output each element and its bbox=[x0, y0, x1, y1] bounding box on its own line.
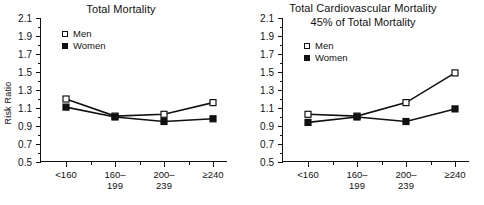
data-point-marker bbox=[354, 114, 360, 120]
y-axis-minor-tick bbox=[38, 27, 41, 28]
y-axis-tick-label: 0.9 bbox=[250, 121, 274, 132]
y-axis-minor-tick bbox=[280, 45, 283, 46]
y-axis-minor-tick bbox=[280, 27, 283, 28]
data-point-marker bbox=[161, 111, 167, 117]
x-axis-tick bbox=[164, 162, 165, 167]
y-axis-tick bbox=[278, 54, 283, 55]
data-point-marker bbox=[161, 119, 167, 125]
panel-total-mortality: Total Mortality Risk Ratio Men Women 0.5… bbox=[0, 0, 242, 205]
panel-total-cardiovascular-mortality: Total Cardiovascular Mortality 45% of To… bbox=[242, 0, 484, 205]
y-axis-tick-label: 0.5 bbox=[250, 157, 274, 168]
x-axis-tick bbox=[455, 162, 456, 167]
y-axis-tick-label: 1.7 bbox=[8, 49, 32, 60]
y-axis-tick bbox=[36, 54, 41, 55]
y-axis-tick-label: 0.5 bbox=[8, 157, 32, 168]
y-axis-minor-tick bbox=[280, 153, 283, 154]
x-axis-tick-label-line: ≥240 bbox=[425, 169, 484, 180]
y-axis-tick bbox=[278, 90, 283, 91]
x-axis-tick bbox=[357, 162, 358, 167]
x-axis-minor-tick bbox=[333, 162, 334, 165]
y-axis-tick-label: 0.7 bbox=[250, 139, 274, 150]
y-axis-minor-tick bbox=[280, 63, 283, 64]
y-axis-tick bbox=[36, 126, 41, 127]
y-axis-tick-label: 2.1 bbox=[250, 13, 274, 24]
y-axis-tick-label: 1.1 bbox=[250, 103, 274, 114]
x-axis-tick-label-line: ≥240 bbox=[183, 169, 243, 180]
y-axis-tick bbox=[278, 126, 283, 127]
series-line-women bbox=[66, 107, 213, 121]
series-line-men bbox=[66, 99, 213, 116]
y-axis-tick-label: 1.9 bbox=[8, 31, 32, 42]
data-point-marker bbox=[112, 114, 118, 120]
plot-area: 0.50.70.91.11.31.51.71.92.1<160160–19920… bbox=[40, 18, 227, 162]
y-axis-tick bbox=[278, 108, 283, 109]
series-layer bbox=[282, 18, 469, 162]
data-point-marker bbox=[63, 96, 69, 102]
y-axis-minor-tick bbox=[38, 81, 41, 82]
figure-two-panel-line-charts: Total Mortality Risk Ratio Men Women 0.5… bbox=[0, 0, 484, 205]
data-point-marker bbox=[403, 100, 409, 106]
y-axis-minor-tick bbox=[38, 45, 41, 46]
y-axis-tick bbox=[36, 144, 41, 145]
x-axis-tick-label-line: 239 bbox=[376, 180, 436, 191]
data-point-marker bbox=[305, 119, 311, 125]
x-axis-minor-tick bbox=[140, 162, 141, 165]
y-axis-tick-label: 1.5 bbox=[250, 67, 274, 78]
x-axis-tick-label: ≥240 bbox=[425, 169, 484, 180]
y-axis-tick bbox=[36, 90, 41, 91]
y-axis-tick-label: 1.9 bbox=[250, 31, 274, 42]
y-axis-tick-label: 1.1 bbox=[8, 103, 32, 114]
y-axis-minor-tick bbox=[38, 117, 41, 118]
series-line-men bbox=[308, 73, 455, 116]
x-axis-tick-label-line: 239 bbox=[134, 180, 194, 191]
x-axis-minor-tick bbox=[431, 162, 432, 165]
y-axis-tick-label: 1.3 bbox=[8, 85, 32, 96]
y-axis-tick-label: 0.7 bbox=[8, 139, 32, 150]
y-axis-minor-tick bbox=[38, 153, 41, 154]
y-axis-tick bbox=[36, 36, 41, 37]
data-point-marker bbox=[210, 116, 216, 122]
y-axis-tick bbox=[278, 144, 283, 145]
y-axis-tick bbox=[278, 72, 283, 73]
y-axis-tick bbox=[36, 18, 41, 19]
y-axis-minor-tick bbox=[280, 135, 283, 136]
plot-area: 0.50.70.91.11.31.51.71.92.1<160160–19920… bbox=[282, 18, 469, 162]
panel-title: Total Mortality bbox=[0, 3, 242, 16]
y-axis-tick-label: 2.1 bbox=[8, 13, 32, 24]
x-axis-tick bbox=[115, 162, 116, 167]
x-axis-tick-label: ≥240 bbox=[183, 169, 243, 180]
x-axis-tick bbox=[308, 162, 309, 167]
x-axis-tick bbox=[406, 162, 407, 167]
y-axis-tick bbox=[278, 36, 283, 37]
y-axis-minor-tick bbox=[38, 63, 41, 64]
y-axis-tick-label: 1.5 bbox=[8, 67, 32, 78]
x-axis-tick bbox=[66, 162, 67, 167]
y-axis-tick bbox=[278, 162, 283, 163]
data-point-marker bbox=[403, 119, 409, 125]
data-point-marker bbox=[210, 100, 216, 106]
x-axis-minor-tick bbox=[382, 162, 383, 165]
y-axis-minor-tick bbox=[38, 99, 41, 100]
y-axis-minor-tick bbox=[280, 117, 283, 118]
panel-title: Total Cardiovascular Mortality bbox=[242, 2, 484, 15]
data-point-marker bbox=[452, 106, 458, 112]
y-axis-tick bbox=[278, 18, 283, 19]
y-axis-minor-tick bbox=[280, 99, 283, 100]
y-axis-tick bbox=[36, 72, 41, 73]
y-axis-tick bbox=[36, 162, 41, 163]
x-axis-minor-tick bbox=[189, 162, 190, 165]
y-axis-tick-label: 1.3 bbox=[250, 85, 274, 96]
series-layer bbox=[40, 18, 227, 162]
y-axis-minor-tick bbox=[38, 135, 41, 136]
y-axis-tick-label: 0.9 bbox=[8, 121, 32, 132]
y-axis-minor-tick bbox=[280, 81, 283, 82]
y-axis-tick-label: 1.7 bbox=[250, 49, 274, 60]
data-point-marker bbox=[63, 104, 69, 110]
y-axis-tick bbox=[36, 108, 41, 109]
x-axis-tick bbox=[213, 162, 214, 167]
data-point-marker bbox=[305, 111, 311, 117]
data-point-marker bbox=[452, 70, 458, 76]
x-axis-minor-tick bbox=[91, 162, 92, 165]
